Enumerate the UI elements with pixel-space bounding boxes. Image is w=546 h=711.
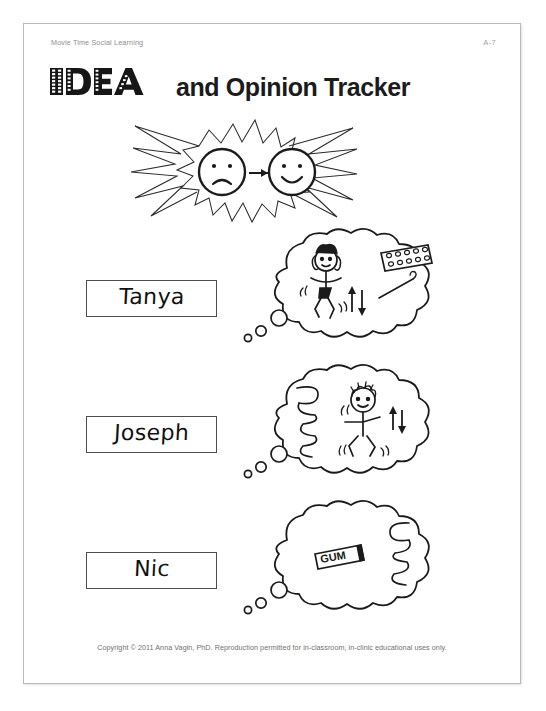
happy-face-icon (269, 149, 315, 195)
thought-bubble-joseph (239, 362, 439, 488)
series-title: Movie Time Social Learning (51, 38, 143, 47)
tracker-row: Tanya (24, 226, 520, 366)
title-film-word-idea (50, 69, 170, 96)
thought-bubble-tanya (239, 226, 439, 352)
name-box-0[interactable]: Tanya (86, 280, 217, 317)
sad-face-icon (199, 149, 245, 195)
worksheet-page: Movie Time Social Learning A-7 (23, 23, 521, 684)
title-rest-text: and Opinion Tracker (176, 73, 410, 102)
page-number: A-7 (483, 38, 496, 47)
page-title: and Opinion Tracker (50, 69, 410, 103)
starburst-graphic (129, 116, 359, 234)
name-text-1: Joseph (113, 422, 190, 447)
name-text-0: Tanya (118, 286, 185, 311)
tracker-row: Joseph (24, 362, 520, 502)
name-box-2[interactable]: Nic (86, 552, 217, 589)
copyright-footer: Copyright © 2011 Anna Vagin, PhD. Reprod… (24, 643, 520, 652)
name-box-1[interactable]: Joseph (86, 416, 217, 453)
right-arrow-icon (249, 169, 268, 177)
tracker-row: Nic GUM (24, 498, 520, 638)
thought-bubble-nic: GUM (239, 498, 439, 624)
name-text-2: Nic (133, 558, 170, 583)
page-header: Movie Time Social Learning A-7 (24, 38, 520, 54)
